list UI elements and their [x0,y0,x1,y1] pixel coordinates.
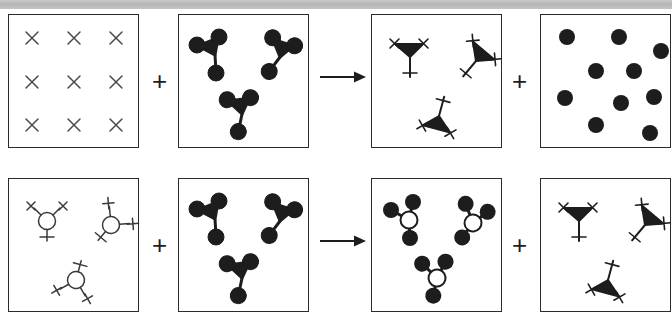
tripod-filled-graphic [179,15,310,149]
scattered-dots-graphic [541,15,672,149]
tripod-x-graphic [372,15,503,149]
panel-tripod-x-tipped-2[interactable] [540,178,671,312]
operator-plus-3: + [152,232,167,258]
reaction-arrow-2 [320,234,368,248]
x-mark [26,32,38,44]
dot [653,43,669,59]
tripod-x-molecule [390,39,428,77]
tripod-filled-molecule [210,82,260,142]
circle-x-tripod-molecule [52,256,101,304]
dot [588,117,604,133]
operator-plus-2: + [512,68,527,94]
panel-tripod-filled-2[interactable] [178,178,309,312]
x-grid-graphic [9,15,140,149]
x-mark [110,119,122,131]
x-mark [68,32,80,44]
x-mark [110,32,122,44]
dot [557,90,573,106]
x-mark [26,76,38,88]
panel-substrate-x-grid[interactable] [8,14,139,148]
dot [559,29,575,45]
dot [588,63,604,79]
dot [626,63,642,79]
tripod-x-molecule [617,198,671,252]
tripod-filled-molecule [243,20,306,84]
figure-canvas: + [0,0,672,319]
operator-plus-1: + [152,68,167,94]
tripod-x-molecule [586,256,633,303]
tripod-filled-molecule [243,184,306,248]
circle-x-tripod-molecule [83,198,139,254]
tripod-x-molecule [559,203,597,241]
x-mark [26,119,38,131]
dot [613,95,629,111]
truncated-text-strip [0,0,672,9]
x-mark [110,76,122,88]
circle-dot-tripod-molecule [383,194,421,246]
x-mark [68,76,80,88]
dot [646,89,662,105]
circle-dot-tripod-graphic [372,179,503,313]
tripod-x-molecule [417,92,464,139]
circle-x-tripod-graphic [9,179,140,313]
panel-tripod-filled-1[interactable] [178,14,309,148]
tripod-x-molecule [448,34,502,88]
tripod-x-graphic [541,179,672,313]
tripod-filled-molecule [210,246,260,306]
circle-x-tripod-molecule [27,202,67,241]
operator-plus-4: + [512,232,527,258]
circle-dot-tripod-molecule [405,246,455,306]
panel-open-circle-x-tripod[interactable] [8,178,139,312]
tripod-filled-graphic [179,179,310,313]
panel-free-dots-1[interactable] [540,14,671,148]
circle-dot-tripod-molecule [436,186,499,250]
tripod-filled-molecule [189,29,227,81]
panel-tripod-x-tipped-1[interactable] [371,14,502,148]
reaction-arrow-1 [320,70,368,84]
dot [611,29,627,45]
panel-open-circle-dot-tripod[interactable] [371,178,502,312]
x-mark [68,119,80,131]
tripod-filled-molecule [189,193,227,245]
dot [642,125,658,141]
